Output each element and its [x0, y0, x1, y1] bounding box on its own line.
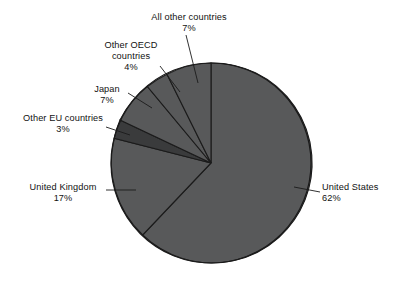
pie-label-other-eu-countries-value: 3%: [8, 124, 118, 135]
pie-label-other-oecd-countries-value: 4%: [89, 62, 173, 73]
pie-label-all-other-countries-name: All other countries: [137, 12, 241, 23]
pie-label-all-other-countries-value: 7%: [137, 23, 241, 34]
pie-label-united-kingdom-name: United Kingdom: [14, 182, 112, 193]
pie-label-other-eu-countries-name: Other EU countries: [8, 113, 118, 124]
pie-label-all-other-countries: All other countries 7%: [137, 12, 241, 34]
pie-label-japan-name: Japan: [82, 84, 132, 95]
pie-label-united-states: United States 62%: [322, 182, 408, 204]
pie-label-united-kingdom: United Kingdom 17%: [14, 182, 112, 204]
pie-label-united-states-value: 62%: [322, 193, 408, 204]
pie-label-other-eu-countries: Other EU countries 3%: [8, 113, 118, 135]
pie-label-other-oecd-countries-name-line1: Other OECD: [89, 40, 173, 51]
pie-label-united-states-name: United States: [322, 182, 408, 193]
pie-label-other-oecd-countries: Other OECD countries 4%: [89, 40, 173, 74]
pie-label-japan-value: 7%: [82, 95, 132, 106]
pie-label-united-kingdom-value: 17%: [14, 193, 112, 204]
pie-chart: All other countries 7% Other OECD countr…: [0, 0, 413, 284]
pie-label-japan: Japan 7%: [82, 84, 132, 106]
pie-label-other-oecd-countries-name-line2: countries: [89, 51, 173, 62]
pie-chart-graphic: [0, 0, 413, 284]
